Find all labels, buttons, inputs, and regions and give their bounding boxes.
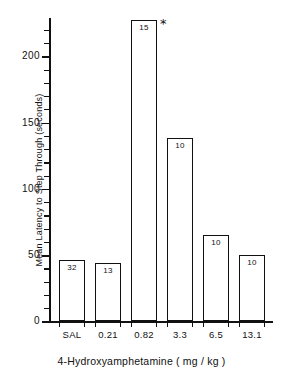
bar-13-1: 10 xyxy=(239,255,265,321)
y-tick-200 xyxy=(42,56,49,58)
y-tick-minor xyxy=(44,162,49,163)
y-tick-label-0: 0 xyxy=(34,316,40,326)
x-tick xyxy=(239,321,240,327)
y-tick-minor xyxy=(44,43,49,44)
y-tick-150 xyxy=(42,123,49,125)
x-tick xyxy=(131,321,132,327)
bar-0-21: 13 xyxy=(95,263,121,322)
x-tick xyxy=(59,321,60,327)
bar-6-5: 10 xyxy=(203,235,229,321)
y-tick-minor xyxy=(44,229,49,230)
bar-n-label: 32 xyxy=(60,264,84,272)
y-tick-label-200: 200 xyxy=(22,51,40,61)
y-tick-label-50: 50 xyxy=(28,250,40,260)
y-tick-label-150: 150 xyxy=(22,118,40,128)
x-tick xyxy=(120,321,121,327)
bar-n-label: 15 xyxy=(132,24,156,32)
x-axis-title: 4-Hydroxyamphetamine ( mg / kg ) xyxy=(0,355,283,367)
y-tick-minor xyxy=(44,109,49,110)
bar-3-3: 10 xyxy=(167,138,193,321)
y-tick-minor xyxy=(44,215,49,216)
bar-n-label: 13 xyxy=(96,267,120,275)
x-tick xyxy=(95,321,96,327)
y-tick-minor xyxy=(44,30,49,31)
plot-area: 0 50 100 150 200 32 13 xyxy=(49,18,273,323)
y-tick-50 xyxy=(42,255,49,257)
y-tick-minor xyxy=(44,268,49,269)
x-tick xyxy=(192,321,193,327)
y-tick-minor xyxy=(44,308,49,309)
bar-n-label: 10 xyxy=(204,239,228,247)
x-tick xyxy=(203,321,204,327)
x-tick xyxy=(84,321,85,327)
bar-n-label: 10 xyxy=(168,142,192,150)
y-axis-title: Mean Latency to Step Through (seconds) xyxy=(34,45,44,315)
y-tick-minor xyxy=(44,176,49,177)
y-axis-line xyxy=(49,18,51,323)
y-tick-minor xyxy=(44,83,49,84)
y-tick-minor xyxy=(44,70,49,71)
x-tick-label-13-1: 13.1 xyxy=(234,330,270,340)
y-tick-minor xyxy=(44,242,49,243)
bar-sal: 32 xyxy=(59,260,85,321)
y-tick-minor xyxy=(44,282,49,283)
x-tick-label-sal: SAL xyxy=(54,330,90,340)
y-tick-100 xyxy=(42,189,49,191)
x-tick-label-3-3: 3.3 xyxy=(162,330,198,340)
x-tick xyxy=(167,321,168,327)
significance-asterisk: * xyxy=(160,17,167,30)
x-tick-label-6-5: 6.5 xyxy=(198,330,234,340)
y-tick-0 xyxy=(42,321,49,323)
y-tick-minor xyxy=(44,295,49,296)
y-tick-label-100: 100 xyxy=(22,184,40,194)
x-tick-label-0-82: 0.82 xyxy=(126,330,162,340)
y-tick-minor xyxy=(44,96,49,97)
y-tick-minor xyxy=(44,202,49,203)
figure-bar-chart: Mean Latency to Step Through (seconds) 0… xyxy=(0,0,283,378)
y-tick-minor xyxy=(44,149,49,150)
y-tick-minor xyxy=(44,136,49,137)
bar-n-label: 10 xyxy=(240,259,264,267)
x-tick xyxy=(228,321,229,327)
x-tick xyxy=(156,321,157,327)
bar-0-82: 15 xyxy=(131,20,157,321)
x-tick xyxy=(264,321,265,327)
x-tick-label-0-21: 0.21 xyxy=(90,330,126,340)
